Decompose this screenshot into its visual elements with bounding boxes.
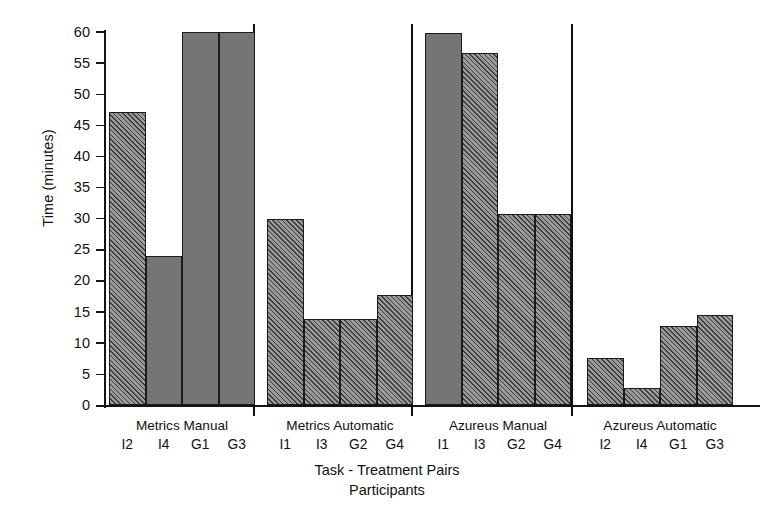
participant-label: G3 (689, 438, 742, 452)
y-axis-tick-label: 15 (50, 305, 90, 320)
group-label: Azureus Automatic (557, 419, 763, 433)
bar-metrics-automatic-i1 (267, 219, 304, 406)
y-axis-tick (96, 280, 104, 281)
bar-metrics-automatic-i3 (304, 319, 341, 406)
y-axis-tick (96, 218, 104, 219)
y-axis-tick (96, 249, 104, 250)
participant-label: G4 (369, 438, 422, 452)
bar-metrics-manual-g3 (219, 32, 256, 405)
bar-azureus-manual-i3 (462, 53, 499, 406)
participant-label: G4 (527, 438, 580, 452)
y-axis-tick (96, 125, 104, 126)
y-axis-tick (96, 94, 104, 95)
y-axis-tick-label: 0 (50, 398, 90, 413)
group-divider-line (571, 24, 573, 416)
x-axis-subtitle: Participants (0, 482, 774, 498)
bar-metrics-automatic-g4 (377, 295, 414, 405)
x-axis-line (96, 405, 760, 407)
bar-azureus-automatic-i2 (587, 358, 624, 406)
y-axis-tick (96, 311, 104, 312)
y-axis-tick-label: 55 (50, 56, 90, 71)
bar-azureus-manual-g2 (498, 214, 535, 405)
bar-metrics-automatic-g2 (340, 319, 377, 406)
bar-azureus-automatic-i4 (624, 388, 661, 405)
y-axis-tick-label: 40 (50, 149, 90, 164)
bar-azureus-automatic-g3 (697, 315, 734, 406)
y-axis-tick (96, 374, 104, 375)
y-axis-tick-label: 60 (50, 25, 90, 40)
bar-metrics-manual-i4 (146, 256, 183, 405)
bar-metrics-manual-g1 (182, 32, 219, 405)
bar-chart: Time (minutes) 051015202530354045505560 … (0, 0, 774, 513)
y-axis-line (104, 30, 106, 408)
y-axis-tick (96, 342, 104, 343)
y-axis-tick (96, 31, 104, 32)
y-axis-tick-label: 5 (50, 367, 90, 382)
bar-azureus-automatic-g1 (660, 326, 697, 405)
y-axis-tick-label: 35 (50, 180, 90, 195)
participant-label: G3 (211, 438, 264, 452)
y-axis-tick-label: 45 (50, 118, 90, 133)
bar-azureus-manual-i1 (425, 33, 462, 405)
y-axis-tick-label: 25 (50, 242, 90, 257)
bar-azureus-manual-g4 (535, 214, 572, 405)
bar-metrics-manual-i2 (109, 112, 146, 405)
y-axis-tick (96, 405, 104, 406)
y-axis-tick-label: 10 (50, 336, 90, 351)
y-axis-tick-label: 30 (50, 211, 90, 226)
y-axis-tick (96, 187, 104, 188)
x-axis-title: Task - Treatment Pairs (0, 462, 774, 478)
y-axis-tick-label: 20 (50, 273, 90, 288)
y-axis-tick (96, 156, 104, 157)
y-axis-tick-label: 50 (50, 87, 90, 102)
y-axis-tick (96, 62, 104, 63)
